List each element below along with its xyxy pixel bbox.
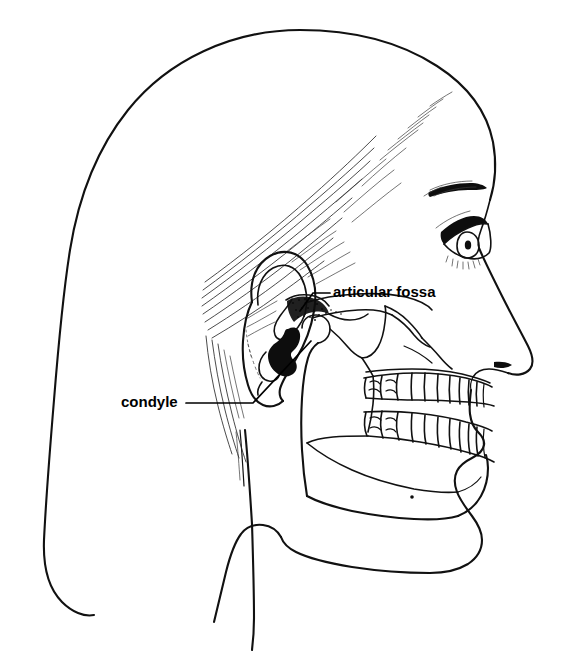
pupil — [465, 240, 471, 249]
label-condyle: condyle — [121, 393, 178, 410]
mental-foramen-dot — [410, 495, 414, 499]
head-lateral-diagram: articular fossa condyle — [0, 0, 569, 654]
label-articular-fossa: articular fossa — [333, 283, 436, 300]
figure-background — [0, 0, 569, 654]
anatomical-figure: articular fossa condyle — [0, 0, 569, 654]
